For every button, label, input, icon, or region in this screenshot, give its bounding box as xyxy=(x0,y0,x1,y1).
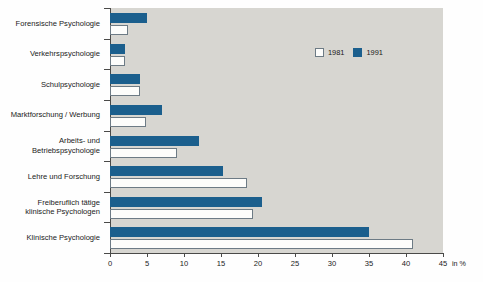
bar-1991 xyxy=(110,74,140,84)
bar-row xyxy=(0,161,483,192)
x-axis-tick xyxy=(443,253,444,257)
x-axis-tick-label: 5 xyxy=(132,259,162,268)
bar-row xyxy=(0,222,483,253)
x-axis-tick-label: 30 xyxy=(317,259,347,268)
bar-row xyxy=(0,69,483,100)
blue-square-icon xyxy=(353,48,362,57)
x-axis-tick-label: 25 xyxy=(280,259,310,268)
x-axis-tick xyxy=(369,253,370,257)
x-axis-tick xyxy=(147,253,148,257)
x-axis-tick-label: 0 xyxy=(95,259,125,268)
x-axis-tick xyxy=(110,253,111,257)
bar-1981 xyxy=(110,209,253,219)
legend-label-1991: 1991 xyxy=(366,48,382,57)
bar-1981 xyxy=(110,117,146,127)
x-axis-tick xyxy=(406,253,407,257)
bar-row xyxy=(0,39,483,70)
bar-row xyxy=(0,100,483,131)
bar-1981 xyxy=(110,56,125,66)
x-axis-tick-label: 40 xyxy=(391,259,421,268)
legend-item-1981: 1981 xyxy=(315,48,344,57)
bar-row xyxy=(0,8,483,39)
bar-1981 xyxy=(110,25,128,35)
bar-1981 xyxy=(110,86,140,96)
legend-item-1991: 1991 xyxy=(353,48,382,57)
x-axis-unit-label: in % xyxy=(452,259,466,268)
x-axis-tick xyxy=(258,253,259,257)
x-axis-tick-label: 15 xyxy=(206,259,236,268)
x-axis-tick-label: 35 xyxy=(354,259,384,268)
x-axis-tick-label: 20 xyxy=(243,259,273,268)
bar-1991 xyxy=(110,136,199,146)
x-axis-tick xyxy=(295,253,296,257)
bar-1991 xyxy=(110,227,369,237)
bar-1991 xyxy=(110,197,262,207)
bar-1981 xyxy=(110,239,413,249)
bar-1991 xyxy=(110,13,147,23)
x-axis-tick xyxy=(221,253,222,257)
bar-1981 xyxy=(110,178,247,188)
chart-legend: 1981 1991 xyxy=(315,48,383,57)
bar-chart: Forensische PsychologieVerkehrspsycholog… xyxy=(0,0,483,282)
legend-label-1981: 1981 xyxy=(328,48,344,57)
x-axis-line xyxy=(110,253,444,254)
x-axis-tick-label: 10 xyxy=(169,259,199,268)
bar-row xyxy=(0,131,483,162)
x-axis-tick xyxy=(332,253,333,257)
bar-1991 xyxy=(110,166,223,176)
x-axis-tick xyxy=(184,253,185,257)
white-square-icon xyxy=(315,48,324,57)
bar-1991 xyxy=(110,44,125,54)
bar-row xyxy=(0,192,483,223)
bar-1981 xyxy=(110,148,177,158)
bar-1991 xyxy=(110,105,162,115)
